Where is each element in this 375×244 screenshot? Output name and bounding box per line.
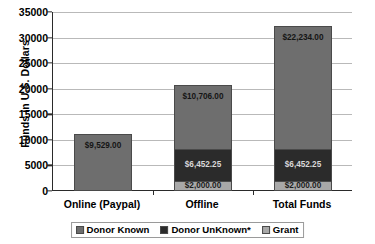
y-axis-tick-label: 25000 — [0, 57, 48, 69]
legend-label: Grant — [273, 225, 299, 235]
plot-area: $9,529.00$2,000.00$6,452.25$10,706.00$2,… — [52, 12, 352, 191]
y-axis-tick-label: 5000 — [0, 159, 48, 171]
y-axis-tick-label: 10000 — [0, 134, 48, 146]
gridline — [53, 12, 352, 13]
legend-swatch-icon — [160, 226, 168, 234]
legend-item[interactable]: Grant — [262, 225, 299, 235]
legend-label: Donor UnKnown* — [171, 225, 250, 235]
y-axis-tick-label: 20000 — [0, 83, 48, 95]
legend-item[interactable]: Donor UnKnown* — [160, 225, 250, 235]
bar-segment[interactable]: $2,000.00 — [274, 181, 332, 191]
y-axis-tick-label: 15000 — [0, 108, 48, 120]
bar-chart: Funds in U.S. Dollars 050001000015000200… — [0, 0, 375, 244]
bar-segment[interactable]: $2,000.00 — [174, 181, 232, 191]
bar-segment[interactable]: $9,529.00 — [74, 134, 132, 191]
bar-group[interactable]: $2,000.00$6,452.25$22,234.00 — [274, 26, 332, 190]
legend-item[interactable]: Donor Known — [76, 225, 150, 235]
bar-value-label: $10,706.00 — [183, 93, 224, 101]
legend-swatch-icon — [262, 226, 270, 234]
x-axis-tick-mark — [253, 190, 254, 195]
bar-value-label: $2,000.00 — [185, 182, 221, 190]
bar-value-label: $22,234.00 — [283, 34, 324, 42]
bar-group[interactable]: $2,000.00$6,452.25$10,706.00 — [174, 85, 232, 190]
x-axis-category-label: Offline — [185, 198, 218, 210]
bar-value-label: $6,452.25 — [185, 161, 221, 169]
bar-value-label: $9,529.00 — [85, 142, 121, 150]
chart-legend: Donor KnownDonor UnKnown*Grant — [71, 222, 305, 238]
bar-segment[interactable]: $22,234.00 — [274, 26, 332, 150]
bar-segment[interactable]: $6,452.25 — [174, 149, 232, 182]
x-axis-category-label: Online (Paypal) — [64, 198, 140, 210]
y-axis-tick-label: 0 — [0, 185, 48, 197]
legend-label: Donor Known — [87, 225, 150, 235]
bar-value-label: $6,452.25 — [285, 161, 321, 169]
bar-segment[interactable]: $10,706.00 — [174, 85, 232, 149]
y-axis-tick-label: 30000 — [0, 32, 48, 44]
x-axis-tick-mark — [153, 190, 154, 195]
x-axis-category-label: Total Funds — [273, 198, 332, 210]
bar-group[interactable]: $9,529.00 — [74, 134, 132, 190]
bar-value-label: $2,000.00 — [285, 182, 321, 190]
y-axis-tick-label: 35000 — [0, 6, 48, 18]
bar-segment[interactable]: $6,452.25 — [274, 149, 332, 182]
legend-swatch-icon — [76, 226, 84, 234]
